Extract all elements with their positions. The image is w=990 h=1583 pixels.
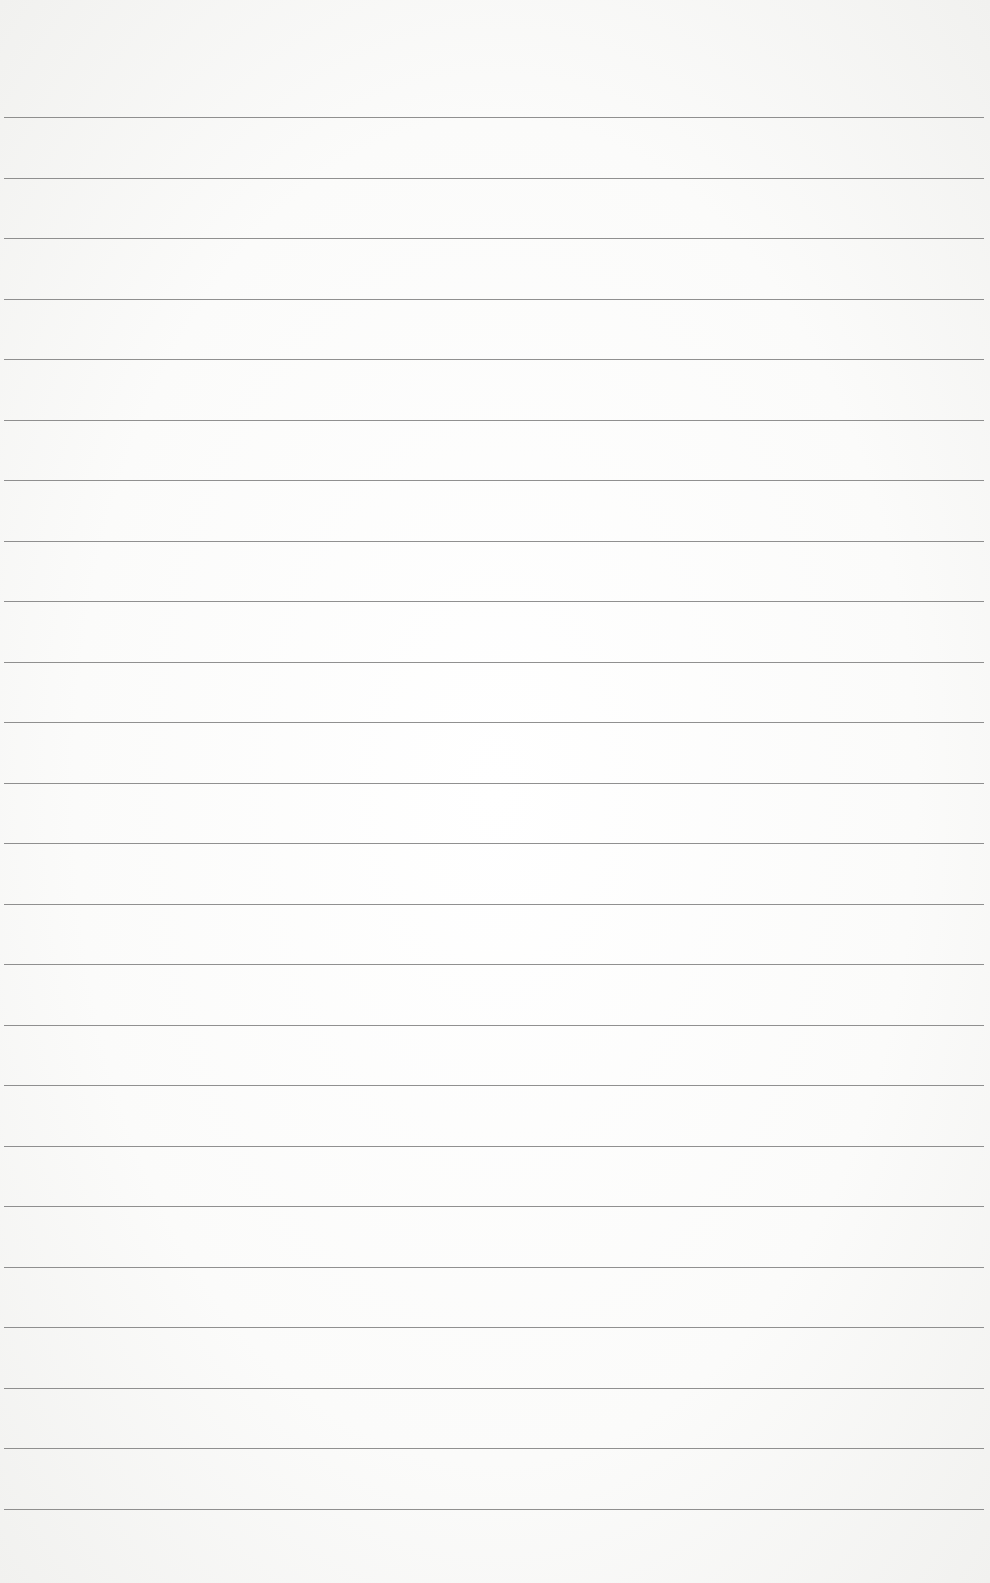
ruled-line: [4, 1025, 984, 1026]
ruled-line: [4, 601, 984, 602]
ruled-line: [4, 783, 984, 784]
ruled-line: [4, 1146, 984, 1147]
ruled-line: [4, 843, 984, 844]
ruled-line: [4, 1327, 984, 1328]
ruled-line: [4, 964, 984, 965]
ruled-line: [4, 1267, 984, 1268]
ruled-line: [4, 904, 984, 905]
ruled-line: [4, 1206, 984, 1207]
ruled-line: [4, 238, 984, 239]
ruled-line: [4, 480, 984, 481]
ruled-line: [4, 1388, 984, 1389]
ruled-line: [4, 541, 984, 542]
ruled-line: [4, 1448, 984, 1449]
ruled-line: [4, 722, 984, 723]
ruled-line: [4, 420, 984, 421]
ruled-line: [4, 178, 984, 179]
ruled-line: [4, 299, 984, 300]
ruled-line: [4, 1085, 984, 1086]
ruled-line: [4, 1509, 984, 1510]
ruled-line: [4, 359, 984, 360]
ruled-line: [4, 117, 984, 118]
ruled-line: [4, 662, 984, 663]
lined-paper-sheet: [0, 0, 990, 1583]
